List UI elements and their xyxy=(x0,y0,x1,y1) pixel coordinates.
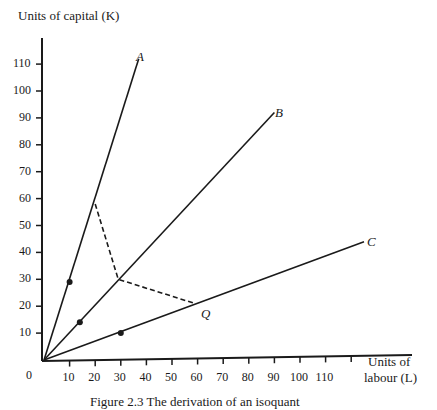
point-marker-on-ray-b xyxy=(77,319,83,325)
y-tick-label: 70 xyxy=(19,164,31,179)
origin-label: 0 xyxy=(26,368,32,383)
x-axis xyxy=(42,355,412,361)
x-tick-label: 20 xyxy=(88,370,100,385)
x-tick-label: 70 xyxy=(216,370,228,385)
x-tick-label: 110 xyxy=(316,370,334,385)
x-tick-label: 90 xyxy=(267,370,279,385)
x-axis-title-line2: labour (L) xyxy=(364,370,417,386)
y-tick-label: 60 xyxy=(19,191,31,206)
y-axis-title: Units of capital (K) xyxy=(18,8,119,24)
x-tick-label: 30 xyxy=(114,370,126,385)
x-tick-label: 10 xyxy=(63,370,75,385)
y-tick-label: 90 xyxy=(19,110,31,125)
x-tick-label: 60 xyxy=(191,370,203,385)
point-marker-on-ray-c xyxy=(118,330,124,336)
ray-b-label: B xyxy=(275,105,283,121)
x-tick-label: 80 xyxy=(242,370,254,385)
x-tick-label: 100 xyxy=(290,370,308,385)
figure-caption: Figure 2.3 The derivation of an isoquant xyxy=(90,394,300,410)
y-tick-label: 20 xyxy=(19,298,31,313)
y-tick-label: 100 xyxy=(13,83,31,98)
y-tick-label: 110 xyxy=(13,56,31,71)
ray-a xyxy=(44,59,139,360)
y-tick-label: 10 xyxy=(19,325,31,340)
y-tick-label: 40 xyxy=(19,244,31,259)
x-tick-label: 50 xyxy=(165,370,177,385)
isoquant-label: Q xyxy=(201,306,210,322)
point-marker-on-ray-a xyxy=(67,279,73,285)
ray-c-label: C xyxy=(367,234,376,250)
y-tick-label: 80 xyxy=(19,137,31,152)
ray-a-label: A xyxy=(136,49,144,65)
x-tick-label: 40 xyxy=(139,370,151,385)
x-axis-title-line1: Units of xyxy=(368,354,410,370)
y-tick-label: 30 xyxy=(19,271,31,286)
y-tick-label: 50 xyxy=(19,218,31,233)
ray-c xyxy=(44,242,364,360)
